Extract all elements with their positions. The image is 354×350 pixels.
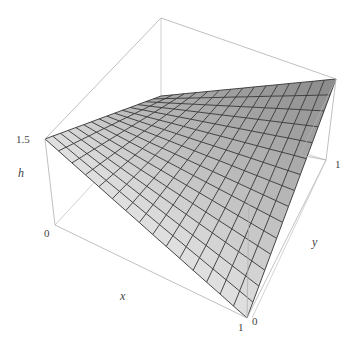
surface-mesh bbox=[45, 79, 336, 318]
x-axis-label: x bbox=[119, 289, 126, 303]
y-end-tick-label: 1 bbox=[335, 158, 341, 170]
surface-plot-3d: 1.5 h 0 x 1 0 y 1 bbox=[0, 0, 354, 350]
z-axis-label: h bbox=[18, 166, 24, 180]
z-tick-label: 1.5 bbox=[16, 133, 30, 145]
x-end-tick-label: 1 bbox=[238, 321, 244, 333]
x-origin-tick-label: 0 bbox=[44, 227, 50, 239]
y-axis-label: y bbox=[311, 235, 318, 249]
y-origin-tick-label: 0 bbox=[252, 315, 258, 327]
